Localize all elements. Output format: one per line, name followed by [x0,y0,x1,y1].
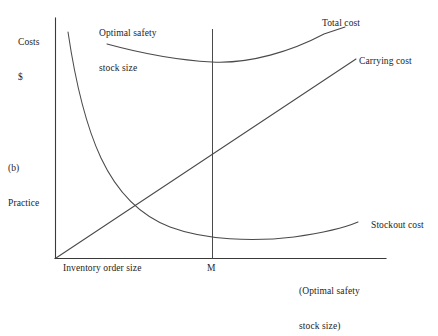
curve-total-cost [107,27,345,62]
annotation-line2: stock size) [299,321,360,333]
chart-axes [55,18,386,259]
